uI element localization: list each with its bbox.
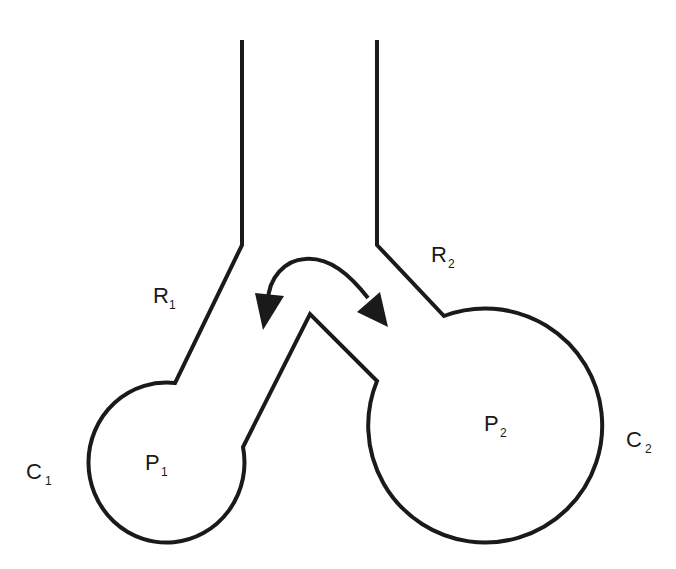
svg-text:2: 2 <box>645 442 652 456</box>
label-p2: P 2 <box>484 411 507 440</box>
svg-text:1: 1 <box>45 474 52 488</box>
svg-text:C: C <box>626 427 642 452</box>
arrowhead-right-icon <box>357 292 388 327</box>
label-r1: R 1 <box>153 283 176 312</box>
svg-text:C: C <box>26 459 42 484</box>
label-r2: R 2 <box>431 242 455 271</box>
svg-text:R: R <box>153 283 169 308</box>
label-p1: P 1 <box>145 450 168 479</box>
lung-model-diagram: R 1 R 2 P 1 P 2 C 1 C 2 <box>0 0 676 569</box>
svg-text:R: R <box>431 242 447 267</box>
arrowhead-left-icon <box>255 293 284 330</box>
svg-text:P: P <box>484 411 499 436</box>
svg-text:1: 1 <box>169 298 176 312</box>
label-c1: C 1 <box>26 459 52 488</box>
svg-text:P: P <box>145 450 160 475</box>
svg-text:1: 1 <box>161 465 168 479</box>
svg-text:2: 2 <box>448 257 455 271</box>
label-c2: C 2 <box>626 427 652 456</box>
svg-text:2: 2 <box>500 426 507 440</box>
gas-exchange-arrow-curve <box>268 259 368 302</box>
